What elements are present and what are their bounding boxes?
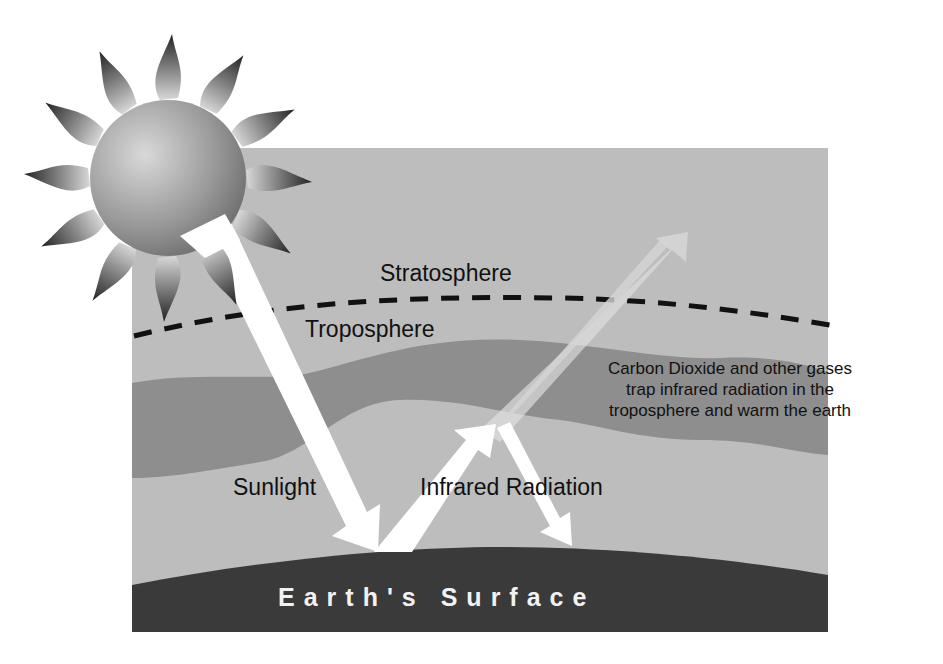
co2-note-line-1: Carbon Dioxide and other gases — [552, 358, 908, 379]
greenhouse-diagram: Stratosphere Troposphere Sunlight Infrar… — [0, 0, 943, 664]
infrared-radiation-label: Infrared Radiation — [420, 474, 603, 501]
co2-note-line-3: troposphere and warm the earth — [552, 400, 908, 421]
co2-note: Carbon Dioxide and other gases trap infr… — [552, 358, 908, 421]
stratosphere-label: Stratosphere — [380, 260, 512, 287]
co2-note-line-2: trap infrared radiation in the — [552, 379, 908, 400]
earth-surface-label: Earth's Surface — [278, 583, 595, 612]
sunlight-label: Sunlight — [233, 474, 316, 501]
troposphere-label: Troposphere — [305, 316, 435, 343]
